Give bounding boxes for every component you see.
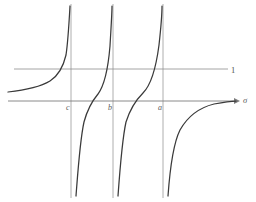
asymptote-label-a: a — [158, 104, 162, 112]
curve-branch-right-of-a — [168, 101, 236, 196]
asymptote-label-c: c — [66, 104, 70, 112]
function-plot-figure: 1 σ c b a — [0, 0, 256, 202]
unit-level-label: 1 — [231, 66, 235, 75]
asymptote-label-b: b — [108, 104, 112, 112]
sigma-axis — [8, 98, 240, 104]
sigma-axis-label: σ — [243, 96, 247, 105]
curve-branch-left-of-c — [8, 6, 70, 92]
plot-canvas — [0, 0, 256, 202]
